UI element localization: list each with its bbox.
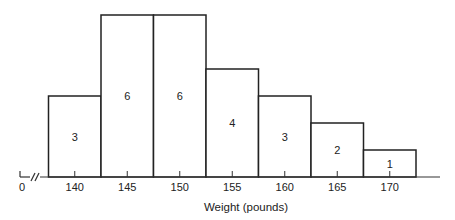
x-tick-label: 170 bbox=[381, 181, 399, 193]
bar-value-label: 2 bbox=[334, 144, 340, 156]
origin-label: 0 bbox=[19, 181, 25, 193]
x-tick-label: 150 bbox=[171, 181, 189, 193]
x-tick-label: 145 bbox=[118, 181, 136, 193]
x-tick-label: 160 bbox=[276, 181, 294, 193]
x-tick-label: 165 bbox=[328, 181, 346, 193]
bar-value-label: 6 bbox=[177, 90, 183, 102]
bar-value-label: 3 bbox=[72, 131, 78, 143]
x-tick-label: 155 bbox=[223, 181, 241, 193]
bars-group: 3664321 bbox=[49, 15, 417, 177]
axis-break-mark-2 bbox=[35, 173, 39, 181]
bar-value-label: 3 bbox=[282, 131, 288, 143]
histogram-chart: 3664321 0 140145150155160165170 Weight (… bbox=[0, 0, 455, 220]
bar-value-label: 6 bbox=[124, 90, 130, 102]
x-tick-label: 140 bbox=[66, 181, 84, 193]
axis-break-mark-1 bbox=[31, 173, 35, 181]
bar-value-label: 4 bbox=[229, 117, 235, 129]
x-axis-label: Weight (pounds) bbox=[204, 201, 288, 213]
bar-value-label: 1 bbox=[387, 158, 393, 170]
